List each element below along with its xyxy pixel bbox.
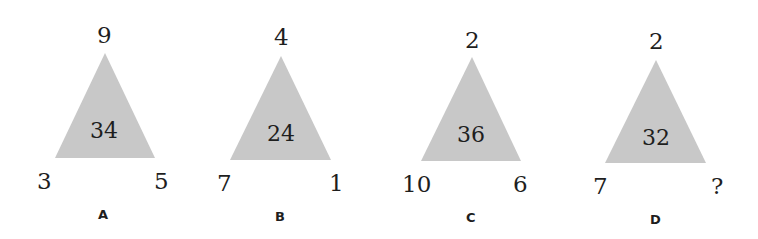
right-number: 1 [329, 172, 344, 195]
triangle-puzzle-d: 2 32 7 ? D [568, 0, 758, 239]
triangle-puzzle-c: 2 36 10 6 C [380, 0, 570, 239]
center-number: 36 [457, 124, 485, 146]
top-number: 4 [274, 26, 289, 49]
right-number: 6 [513, 173, 528, 196]
top-number: 2 [649, 30, 664, 53]
center-number: 32 [642, 127, 670, 149]
center-number: 24 [267, 123, 295, 145]
left-number: 10 [402, 173, 431, 196]
puzzle-label: B [275, 210, 285, 223]
top-number: 9 [97, 24, 112, 47]
puzzle-label: D [650, 213, 661, 226]
triangle-puzzle-a: 9 34 3 5 A [0, 0, 190, 239]
unknown-number: ? [711, 175, 723, 198]
left-number: 3 [37, 170, 52, 193]
center-number: 34 [90, 120, 118, 142]
triangle-puzzle-b: 4 24 7 1 B [190, 0, 380, 239]
left-number: 7 [593, 175, 608, 198]
right-number: 5 [154, 170, 169, 193]
top-number: 2 [465, 29, 480, 52]
puzzle-label: A [98, 208, 108, 221]
puzzle-label: C [466, 211, 476, 224]
left-number: 7 [217, 172, 232, 195]
